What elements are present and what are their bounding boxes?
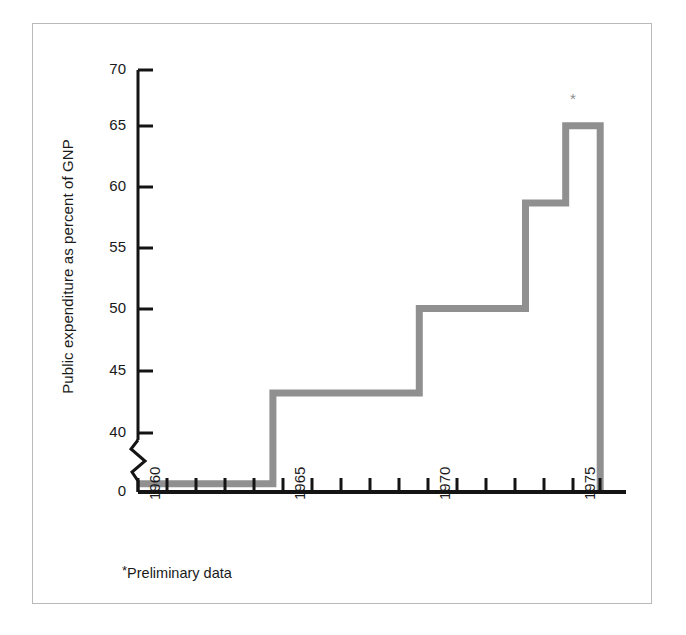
footnote: *Preliminary data [122,563,232,581]
y-tick-label-65: 65 [84,116,126,133]
x-tick-label-1965: 1965 [291,467,308,500]
y-tick-label-55: 55 [84,238,126,255]
y-tick-label-60: 60 [84,177,126,194]
y-tick-label-0: 0 [84,482,126,499]
x-tick-label-1975: 1975 [581,467,598,500]
y-tick-marks [138,70,153,433]
series-step-line [138,126,600,492]
y-axis-title: Public expenditure as percent of GNP [59,102,76,432]
y-tick-label-40: 40 [84,423,126,440]
footnote-text: Preliminary data [127,565,232,581]
y-tick-label-45: 45 [84,361,126,378]
x-tick-label-1960: 1960 [146,467,163,500]
y-tick-label-50: 50 [84,299,126,316]
chart-plot-area [0,0,686,635]
y-axis [131,70,153,492]
y-tick-label-70: 70 [84,60,126,77]
x-tick-label-1970: 1970 [436,467,453,500]
preliminary-data-asterisk: * [570,90,576,107]
